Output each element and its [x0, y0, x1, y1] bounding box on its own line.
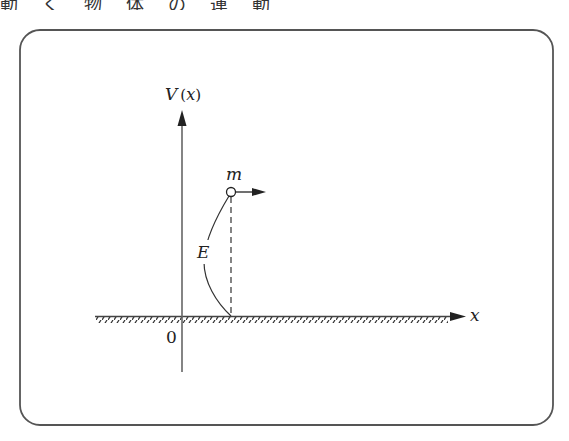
potential-diagram: x V(x) 0 E m — [0, 0, 569, 441]
mass-label: m — [226, 164, 242, 184]
origin-label: 0 — [166, 327, 177, 347]
mass-point — [227, 188, 236, 197]
x-axis-label: x — [470, 305, 480, 325]
ground-hatch — [96, 317, 448, 323]
y-axis-label: V(x) — [165, 84, 201, 104]
diagram-frame — [20, 30, 553, 425]
energy-label: E — [196, 242, 210, 262]
